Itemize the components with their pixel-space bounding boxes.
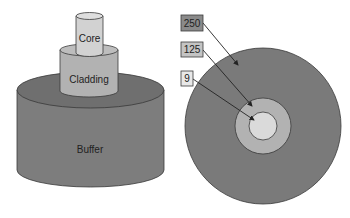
core-label: Core — [79, 33, 101, 44]
svg-text:125: 125 — [184, 44, 201, 55]
svg-text:250: 250 — [184, 18, 201, 29]
cladding-label: Cladding — [69, 74, 108, 85]
svg-text:9: 9 — [184, 73, 190, 84]
label-250: 250 — [181, 15, 203, 31]
label-9: 9 — [181, 71, 193, 86]
fiber-diagram: Core Cladding Buffer 250 125 9 — [0, 0, 350, 218]
leader-250 — [203, 23, 238, 65]
core-disc — [249, 112, 277, 140]
cross-section — [185, 48, 341, 204]
buffer-label: Buffer — [77, 144, 104, 155]
label-125: 125 — [181, 42, 203, 57]
